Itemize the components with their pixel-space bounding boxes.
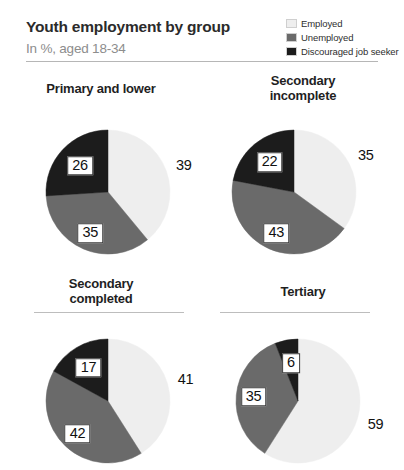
pie-panel-secondary-completed: Secondarycompleted414217 (0, 267, 202, 470)
pie-chart: 59356 (202, 267, 404, 470)
chart-legend: Employed Unemployed Discouraged job seek… (286, 17, 399, 59)
pie-chart: 354322 (202, 64, 404, 267)
pie-panel-primary-and-lower: Primary and lower393526 (0, 64, 202, 267)
pie-panel-tertiary: Tertiary59356 (202, 267, 404, 470)
legend-item-unemployed: Unemployed (286, 31, 399, 44)
pie-value-label: 43 (264, 223, 290, 243)
legend-item-employed: Employed (286, 17, 399, 30)
pie-value-label: 35 (241, 387, 267, 407)
legend-label-employed: Employed (301, 18, 342, 29)
legend-label-unemployed: Unemployed (301, 32, 353, 43)
pie-value-label: 22 (257, 153, 283, 173)
pie-value-label: 41 (178, 371, 194, 386)
pie-chart: 414217 (0, 267, 202, 470)
legend-item-discouraged: Discouraged job seeker (286, 45, 399, 58)
legend-label-discouraged: Discouraged job seeker (301, 46, 399, 57)
pie-value-label: 39 (176, 157, 192, 172)
pie-value-label: 35 (358, 148, 374, 163)
legend-swatch-unemployed (286, 33, 297, 42)
pie-svg (202, 64, 404, 267)
pie-value-label: 35 (78, 223, 104, 243)
legend-swatch-employed (286, 19, 297, 28)
pie-value-label: 6 (282, 353, 300, 373)
pie-chart: 393526 (0, 64, 202, 267)
pie-value-label: 17 (76, 358, 102, 378)
pie-panel-secondary-incomplete: Secondaryincomplete354322 (202, 64, 404, 267)
page-title: Youth employment by group (26, 18, 230, 36)
pie-value-label: 59 (368, 416, 384, 431)
chart-header: Youth employment by group In %, aged 18-… (0, 0, 404, 60)
pie-chart-grid: Primary and lower393526 Secondaryincompl… (0, 64, 404, 470)
pie-value-label: 42 (65, 424, 91, 444)
pie-value-label: 26 (67, 156, 93, 176)
header-divider (26, 61, 378, 62)
page-subtitle: In %, aged 18-34 (26, 41, 126, 56)
pie-svg (202, 267, 404, 470)
legend-swatch-discouraged (286, 47, 297, 56)
